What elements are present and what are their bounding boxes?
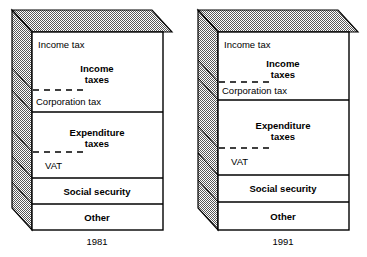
bar-1981-label-income-tax: Income tax — [38, 39, 85, 50]
bar-1981: Income tax Income taxes Corporation tax … — [12, 10, 172, 247]
bar-1991-year-label: 1991 — [272, 236, 293, 247]
bar-1981-top-face — [12, 10, 172, 32]
bar-1991-side-face — [198, 10, 218, 230]
bar-1981-year-label: 1981 — [86, 236, 107, 247]
bar-1991-label-expenditure-taxes-line2: taxes — [271, 131, 295, 142]
diagram-canvas: Income tax Income taxes Corporation tax … — [0, 0, 367, 257]
bar-1981-label-income-taxes-line2: taxes — [85, 74, 109, 85]
bar-1981-label-social-security: Social security — [63, 186, 131, 197]
bar-1981-label-vat: VAT — [45, 160, 62, 171]
bar-1991-label-other: Other — [270, 211, 296, 222]
bar-1991-label-expenditure-taxes-line1: Expenditure — [256, 120, 311, 131]
bar-1981-label-corporation-tax: Corporation tax — [36, 96, 101, 107]
bar-1991: Income tax Income taxes Corporation tax … — [198, 10, 358, 247]
tax-structure-diagram: Income tax Income taxes Corporation tax … — [0, 0, 367, 257]
bar-1991-label-income-taxes-line1: Income — [266, 58, 299, 69]
bar-1981-label-other: Other — [84, 212, 110, 223]
bar-1991-top-face — [198, 10, 358, 32]
bar-1991-label-income-taxes-line2: taxes — [271, 69, 295, 80]
bar-1991-label-corporation-tax: Corporation tax — [222, 85, 287, 96]
bar-1981-label-income-taxes-line1: Income — [80, 63, 113, 74]
bar-1981-label-expenditure-taxes-line2: taxes — [85, 138, 109, 149]
bar-1981-label-expenditure-taxes-line1: Expenditure — [70, 127, 125, 138]
bar-1991-label-social-security: Social security — [249, 183, 317, 194]
bar-1981-side-face — [12, 10, 32, 230]
bar-1991-label-vat: VAT — [231, 156, 248, 167]
bar-1991-label-income-tax: Income tax — [224, 39, 271, 50]
